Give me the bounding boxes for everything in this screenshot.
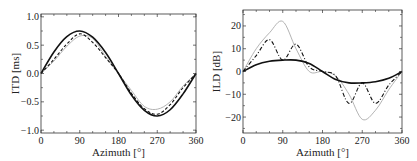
x-tick-label: 180	[111, 135, 126, 146]
y-tick-label: 0	[236, 66, 241, 77]
x-tick-label: 360	[395, 135, 410, 146]
x-tick-label: 180	[315, 135, 330, 146]
x-axis-label: Azimuth [°]	[92, 146, 145, 158]
y-tick-label: 0.0	[27, 68, 40, 79]
y-tick-label: −0.5	[21, 96, 39, 107]
x-axis-label: Azimuth [°]	[296, 146, 349, 158]
y-axis-label: ILD [dB]	[210, 51, 222, 92]
x-tick-label: 90	[75, 135, 85, 146]
series-dashed	[41, 34, 196, 115]
series-gray	[243, 21, 402, 120]
y-tick-label: 0.5	[27, 40, 40, 51]
itd-plot: 0901802703601.00.50.0−0.5−1.0Azimuth [°]…	[9, 11, 204, 158]
x-tick-label: 270	[150, 135, 165, 146]
y-tick-label: 20	[231, 20, 241, 31]
y-tick-label: −10	[225, 89, 241, 100]
y-tick-label: −20	[225, 112, 241, 123]
chart-canvas: 0901802703601.00.50.0−0.5−1.0Azimuth [°]…	[0, 0, 417, 161]
y-axis-label: ITD [ms]	[9, 53, 21, 94]
ild-plot: 09018027036020100−10−20Azimuth [°]ILD [d…	[210, 10, 410, 158]
y-tick-label: −1.0	[21, 125, 39, 136]
y-tick-label: 10	[231, 43, 241, 54]
x-tick-label: 360	[189, 135, 204, 146]
y-tick-label: 1.0	[27, 11, 40, 22]
x-tick-label: 0	[39, 135, 44, 146]
series-dashed	[243, 40, 402, 104]
x-tick-label: 0	[241, 135, 246, 146]
x-tick-label: 270	[355, 135, 370, 146]
x-tick-label: 90	[278, 135, 288, 146]
